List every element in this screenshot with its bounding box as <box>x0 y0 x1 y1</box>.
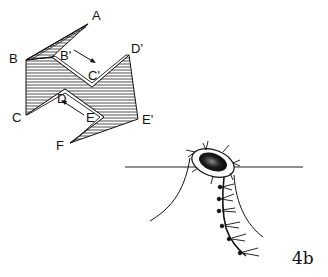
arrow-b-prime-to-c-prime <box>74 50 96 63</box>
label-b: B <box>9 51 18 66</box>
label-a: A <box>92 8 101 23</box>
figure-canvas: A B B' C' D' C D E E' F <box>0 0 328 277</box>
label-d-prime: D' <box>131 41 143 56</box>
specimen-illustration: 4b <box>125 141 314 268</box>
stalk <box>223 177 246 256</box>
label-e-prime: E' <box>142 112 153 127</box>
label-b-prime: B' <box>60 48 71 63</box>
label-f: F <box>56 138 64 153</box>
panel-label: 4b <box>292 248 314 268</box>
label-c-prime: C' <box>88 68 100 83</box>
label-e: E <box>86 110 95 125</box>
label-d: D <box>57 91 66 106</box>
fold-diagram: A B B' C' D' C D E E' F <box>9 8 153 153</box>
hatched-sheet <box>26 55 138 143</box>
label-c: C <box>12 110 21 125</box>
